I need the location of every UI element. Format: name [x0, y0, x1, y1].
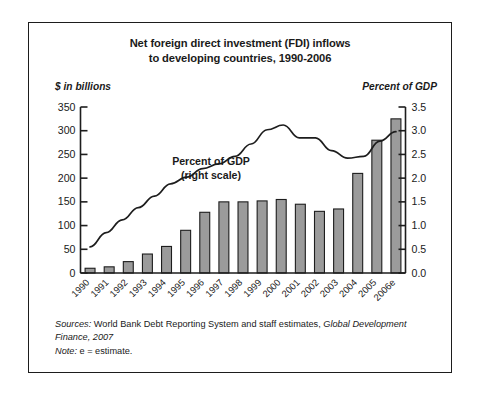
x-axis-label-1998: 1998: [222, 277, 245, 300]
right-tick-label-0.5: 0.5: [412, 243, 427, 255]
left-tick-label-0: 0: [70, 267, 76, 279]
sources-body: World Bank Debt Reporting System and sta…: [91, 319, 323, 329]
right-tick-label-3.0: 3.0: [412, 124, 427, 136]
right-tick-label-2.5: 2.5: [412, 148, 427, 160]
bar-2005: [372, 140, 382, 273]
estimate-note: Note: e = estimate.: [55, 345, 437, 358]
left-tick-label-200: 200: [58, 172, 76, 184]
bar-2001: [295, 204, 305, 273]
x-axis-label-2003: 2003: [317, 277, 340, 300]
x-axis-label-1991: 1991: [88, 277, 111, 300]
percent-of-gdp-annotation-line-1: Percent of GDP: [172, 155, 250, 167]
x-axis-label-1994: 1994: [145, 277, 168, 300]
right-tick-label-1.5: 1.5: [412, 195, 427, 207]
left-tick-label-250: 250: [58, 148, 76, 160]
figure-frame: Net foreign direct investment (FDI) infl…: [28, 22, 452, 373]
bar-1995: [181, 230, 191, 273]
bar-1994: [162, 246, 172, 273]
x-axis-label-2002: 2002: [298, 277, 321, 300]
note-label: Note:: [55, 346, 77, 356]
x-axis-label-1995: 1995: [165, 277, 188, 300]
left-tick-label-150: 150: [58, 195, 76, 207]
right-tick-label-1.0: 1.0: [412, 219, 427, 231]
bar-1993: [142, 254, 152, 273]
bar-2000: [276, 199, 286, 273]
x-axis-label-1993: 1993: [126, 277, 149, 300]
right-tick-label-0.0: 0.0: [412, 267, 427, 279]
x-axis-label-2000: 2000: [260, 277, 283, 300]
bar-1997: [219, 202, 229, 273]
bar-1998: [238, 202, 248, 273]
left-tick-label-50: 50: [64, 243, 76, 255]
footnotes: Sources: World Bank Debt Reporting Syste…: [55, 318, 437, 358]
left-tick-label-350: 350: [58, 101, 76, 113]
x-axis-label-1997: 1997: [203, 277, 226, 300]
x-axis-label-2006e: 2006e: [371, 277, 397, 303]
x-axis-label-1999: 1999: [241, 277, 264, 300]
bar-2004: [353, 173, 363, 273]
x-axis-label-1996: 1996: [184, 277, 207, 300]
bar-1999: [257, 201, 267, 273]
right-tick-label-2.0: 2.0: [412, 172, 427, 184]
bar-2003: [334, 209, 344, 273]
x-axis-label-1990: 1990: [69, 277, 92, 300]
sources-label: Sources:: [55, 319, 91, 329]
bar-1996: [200, 212, 210, 273]
note-body: e = estimate.: [77, 346, 132, 356]
sources-note: Sources: World Bank Debt Reporting Syste…: [55, 318, 437, 345]
x-axis-label-2004: 2004: [337, 277, 360, 300]
left-tick-label-300: 300: [58, 124, 76, 136]
bar-1991: [104, 267, 114, 273]
left-tick-label-100: 100: [58, 219, 76, 231]
x-axis-label-2001: 2001: [279, 277, 302, 300]
right-tick-label-3.5: 3.5: [412, 101, 427, 113]
x-axis-label-1992: 1992: [107, 277, 130, 300]
bar-1992: [123, 262, 133, 273]
bar-series-group: [85, 119, 401, 273]
chart-annotations-group: Percent of GDP(right scale): [172, 155, 250, 181]
percent-of-gdp-annotation-line-2: (right scale): [181, 169, 241, 181]
bar-2002: [315, 211, 325, 273]
x-axis-labels-group: 1990199119921993199419951996199719981999…: [69, 277, 397, 303]
